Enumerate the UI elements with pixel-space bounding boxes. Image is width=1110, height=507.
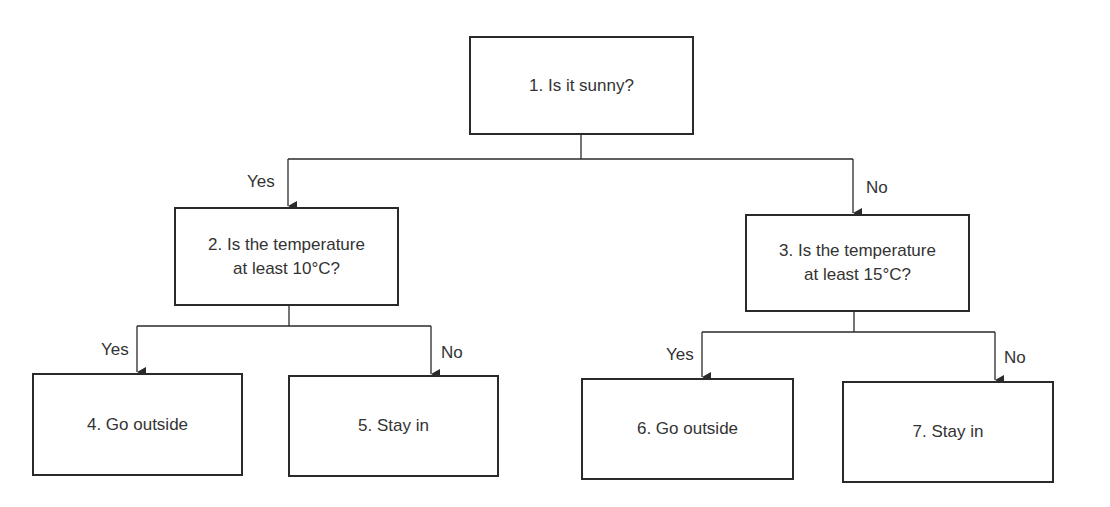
node-6-go-outside: 6. Go outside [581,378,794,480]
node-4-go-outside: 4. Go outside [32,373,243,476]
node-1-label: 1. Is it sunny? [529,74,634,98]
edge-label-2-5-no: No [441,343,463,363]
node-6-label: 6. Go outside [637,417,738,441]
edge-label-2-4-yes: Yes [101,340,129,360]
decision-tree-diagram: 1. Is it sunny? 2. Is the temperature at… [0,0,1110,507]
node-7-label: 7. Stay in [913,420,984,444]
node-7-stay-in: 7. Stay in [842,381,1054,483]
edge-label-3-6-yes: Yes [666,345,694,365]
node-2-temp-10c: 2. Is the temperature at least 10°C? [174,207,399,306]
node-4-label: 4. Go outside [87,413,188,437]
edge-label-3-7-no: No [1004,348,1026,368]
node-3-label: 3. Is the temperature at least 15°C? [775,239,940,287]
edge-label-1-3-no: No [866,178,888,198]
node-3-temp-15c: 3. Is the temperature at least 15°C? [745,214,970,312]
edge-label-1-2-yes: Yes [247,172,275,192]
node-1-is-it-sunny: 1. Is it sunny? [469,36,694,135]
node-5-label: 5. Stay in [358,414,429,438]
node-2-label: 2. Is the temperature at least 10°C? [204,233,369,281]
node-5-stay-in: 5. Stay in [288,375,499,477]
